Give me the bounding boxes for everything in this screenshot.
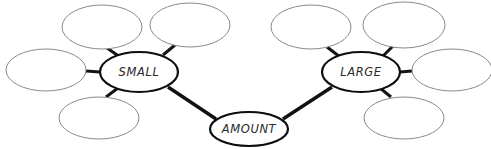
node-label-amount: AMOUNT [221,122,277,136]
main-nodes-layer: SMALLLARGEAMOUNT [100,52,400,146]
empty-node-large-sub-3[interactable] [412,49,491,91]
empty-node-small-sub-1[interactable] [62,5,142,49]
main-node-small[interactable]: SMALL [100,52,178,92]
ellipse-shape [271,5,351,49]
concept-map-canvas: SMALLLARGEAMOUNT [0,0,491,149]
connector-small-spoke-3 [86,71,100,72]
ellipse-shape [364,97,444,139]
empty-node-large-sub-1[interactable] [271,5,351,49]
ellipse-shape [6,49,86,91]
connector-small-to-amount [168,87,216,119]
empty-node-large-sub-2[interactable] [363,2,445,48]
ellipse-shape [150,3,230,47]
node-label-large: LARGE [340,65,382,79]
main-node-large[interactable]: LARGE [322,52,400,92]
empty-node-small-sub-3[interactable] [6,49,86,91]
empty-node-small-sub-4[interactable] [59,97,139,139]
empty-node-large-sub-4[interactable] [364,97,444,139]
connector-small-spoke-2 [163,45,175,55]
concept-map-diagram: SMALLLARGEAMOUNT [0,0,491,149]
ellipse-shape [59,97,139,139]
empty-node-small-sub-2[interactable] [150,3,230,47]
connector-large-spoke-3 [400,71,412,72]
ellipse-shape [62,5,142,49]
ellipse-shape [363,2,445,48]
ellipse-shape [412,49,491,91]
node-label-small: SMALL [119,65,160,79]
connector-large-to-amount [283,87,332,119]
main-node-amount[interactable]: AMOUNT [210,112,288,146]
